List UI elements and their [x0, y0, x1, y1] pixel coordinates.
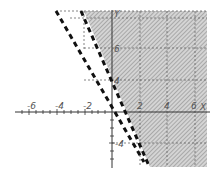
x-tick-label: 4 — [164, 101, 170, 111]
inequality-graph: -6 -4 -2 2 4 6 X 6 4 -4 Y — [0, 0, 216, 176]
x-axis-label: X — [199, 102, 207, 112]
x-tick-label: -4 — [55, 101, 64, 111]
y-tick-label: -4 — [115, 139, 124, 149]
x-tick-label: -2 — [83, 101, 92, 111]
y-tick-label: 6 — [114, 44, 120, 54]
y-tick-label: 4 — [114, 76, 120, 86]
x-tick-label: -6 — [27, 101, 36, 111]
x-tick-label: 6 — [191, 101, 197, 111]
x-tick-label: 2 — [137, 101, 143, 111]
